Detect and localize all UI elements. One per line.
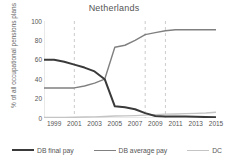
y-tick-label: 60 <box>20 56 42 63</box>
x-tick-label: 2009 <box>144 120 166 127</box>
y-tick-label: 0 <box>20 115 42 122</box>
legend-label-dc: DC <box>212 147 222 154</box>
x-tick-label: 2011 <box>165 120 187 127</box>
x-tick-label: 1999 <box>43 120 65 127</box>
x-tick-label: 2005 <box>104 120 126 127</box>
y-tick-label: 40 <box>20 76 42 83</box>
legend-item-db-final-pay: DB final pay <box>12 147 74 154</box>
y-tick-label: 80 <box>20 37 42 44</box>
x-tick-label: 2015 <box>205 120 227 127</box>
plot-svg <box>44 21 216 118</box>
x-axis-ticks: 199920012003200520072009201120132015 <box>40 120 224 132</box>
y-tick-label: 20 <box>20 95 42 102</box>
legend-swatch-db-final-pay <box>12 149 34 151</box>
legend-item-db-average-pay: DB average pay <box>94 147 168 154</box>
legend-label-db-average-pay: DB average pay <box>119 147 168 154</box>
legend-item-dc: DC <box>187 147 222 154</box>
series-line-db-average-pay <box>44 30 216 88</box>
x-tick-label: 2001 <box>63 120 85 127</box>
chart-title: Netherlands <box>0 3 228 13</box>
plot-area <box>44 21 216 118</box>
legend-swatch-db-average-pay <box>94 150 116 151</box>
chart-figure: Netherlands % of all occupational pensio… <box>0 0 228 162</box>
y-axis-label: % of all occupational pensions plans <box>10 1 17 111</box>
x-tick-label: 2013 <box>185 120 207 127</box>
y-tick-label: 100 <box>20 18 42 25</box>
legend-label-db-final-pay: DB final pay <box>37 147 74 154</box>
x-tick-label: 2007 <box>124 120 146 127</box>
x-tick-label: 2003 <box>84 120 106 127</box>
y-axis-ticks: 020406080100 <box>18 17 42 122</box>
chart-legend: DB final pay DB average pay DC <box>12 143 222 157</box>
legend-swatch-dc <box>187 150 209 151</box>
